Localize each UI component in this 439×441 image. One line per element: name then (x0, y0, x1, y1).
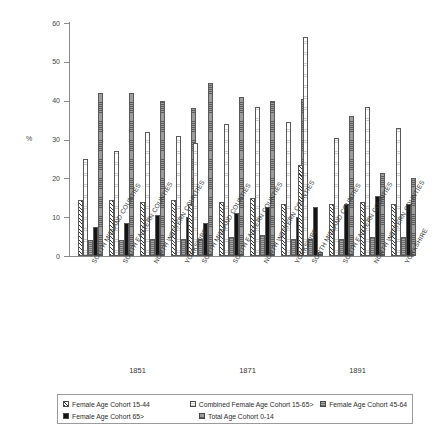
legend-label: Female Age Cohort 45-64 (329, 401, 407, 408)
bar (160, 101, 165, 256)
legend-label: Total Age Cohort 0-14 (208, 413, 274, 420)
grey-grid-swatch (320, 401, 326, 407)
solid-black-swatch (63, 413, 69, 419)
legend-row-1: Female Age Cohort 15-44 Combined Female … (63, 398, 407, 410)
x-axis-group-label: 1851 (108, 366, 168, 375)
y-tick (64, 256, 69, 257)
legend-label: Combined Female Age Cohort 15-65> (199, 401, 314, 408)
legend-item-total-0-14: Total Age Cohort 0-14 (199, 413, 339, 420)
bar (365, 107, 370, 257)
bar (255, 107, 260, 257)
bar (239, 97, 244, 256)
y-tick (64, 217, 69, 218)
x-axis-group-label: 1891 (328, 366, 388, 375)
bar (98, 93, 103, 256)
bar (286, 122, 291, 256)
y-tick (64, 23, 69, 24)
bar-chart: % 0102030405060 SOUTH MIDLAND COUNTIESSO… (0, 0, 439, 441)
light-dotted-swatch (190, 401, 196, 407)
bar (303, 37, 308, 256)
legend-item-female-65: Female Age Cohort 65> (63, 413, 199, 420)
x-axis-group-label: 1871 (218, 366, 278, 375)
y-tick (64, 140, 69, 141)
y-tick-label: 10 (26, 214, 60, 221)
chart-legend: Female Age Cohort 15-44 Combined Female … (57, 394, 413, 424)
y-tick-label: 40 (26, 97, 60, 104)
legend-label: Female Age Cohort 15-44 (72, 401, 150, 408)
hatch-diagonal-swatch (63, 401, 69, 407)
y-tick (64, 62, 69, 63)
bar (129, 93, 134, 256)
legend-item-combined-female-15-65: Combined Female Age Cohort 15-65> (190, 401, 320, 408)
grey-crosshatch-swatch (199, 413, 205, 419)
y-tick-label: 20 (26, 175, 60, 182)
bars-layer (70, 23, 413, 256)
y-tick-label: 50 (26, 58, 60, 65)
y-tick (64, 178, 69, 179)
legend-item-female-45-64: Female Age Cohort 45-64 (320, 401, 407, 408)
bar (145, 132, 150, 256)
y-tick-label: 30 (26, 136, 60, 143)
y-tick (64, 101, 69, 102)
y-tick-label: 0 (26, 253, 60, 260)
legend-label: Female Age Cohort 65> (72, 413, 144, 420)
legend-row-2: Female Age Cohort 65> Total Age Cohort 0… (63, 410, 407, 422)
y-tick-label: 60 (26, 20, 60, 27)
bar (270, 101, 275, 256)
legend-item-female-15-44: Female Age Cohort 15-44 (63, 401, 190, 408)
